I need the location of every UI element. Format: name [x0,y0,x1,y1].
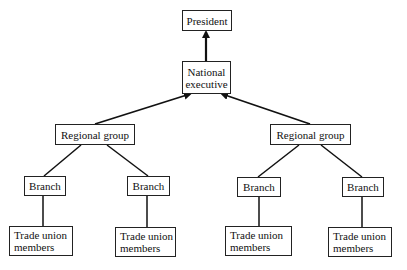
node-label: Branch [347,181,379,193]
node-president: President [182,10,232,31]
node-branch-1: Branch [24,176,66,196]
node-label: Branch [133,180,165,192]
node-label: Branch [243,181,275,193]
node-label: Trade union members [120,230,173,254]
node-label: Branch [29,180,61,192]
node-members-1: Trade union members [9,226,73,256]
node-label: Trade union members [230,229,283,253]
arrow-regional-left [95,94,190,124]
node-label: Regional group [61,129,129,141]
node-label: Regional group [276,129,344,141]
node-label: Trade union members [333,230,386,254]
node-members-4: Trade union members [328,227,392,257]
node-members-2: Trade union members [115,227,176,257]
arrow-regional-right [222,94,310,124]
node-national-executive: National executive [182,61,231,94]
node-label: President [187,15,228,27]
node-members-3: Trade union members [225,226,292,256]
node-regional-group-right: Regional group [270,124,351,145]
node-branch-3: Branch [237,177,281,197]
node-regional-group-left: Regional group [55,124,135,145]
node-branch-2: Branch [127,176,170,196]
node-branch-4: Branch [342,177,384,197]
node-label: National executive [185,66,227,90]
node-label: Trade union members [14,229,67,253]
